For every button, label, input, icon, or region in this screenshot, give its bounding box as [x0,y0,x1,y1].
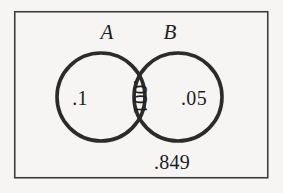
set-a-label: A [100,22,113,43]
set-b-label: B [163,22,176,43]
region-value-intersection: .001 [131,80,150,114]
region-value-b-only: .05 [181,88,207,108]
venn-diagram-figure: A B .1 .001 .05 .849 [0,0,283,193]
region-value-outside: .849 [154,152,190,172]
region-value-a-only: .1 [72,88,88,108]
